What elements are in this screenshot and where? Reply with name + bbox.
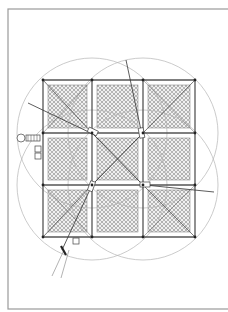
grid-node — [194, 132, 197, 135]
side-box-icon — [35, 146, 41, 152]
grid-node — [91, 236, 94, 239]
architectural-plan — [0, 0, 228, 312]
grid-node — [91, 184, 94, 187]
side-box-icon — [35, 153, 41, 159]
grid-node — [194, 236, 197, 239]
grid-node — [91, 79, 94, 82]
grid-node — [42, 184, 45, 187]
bottom-box-icon — [73, 238, 79, 244]
grid-node — [194, 79, 197, 82]
grid-node — [42, 132, 45, 135]
grid-node — [142, 236, 145, 239]
grid-node — [91, 132, 94, 135]
grid-node — [142, 79, 145, 82]
marker-circle-icon — [17, 134, 25, 142]
grid-node — [42, 236, 45, 239]
grid-node — [194, 184, 197, 187]
diagram-canvas — [0, 0, 228, 312]
hatched-panel — [48, 138, 87, 180]
grid-node — [142, 184, 145, 187]
grid-node — [142, 132, 145, 135]
grid-node — [42, 79, 45, 82]
hatched-panel — [148, 138, 190, 180]
